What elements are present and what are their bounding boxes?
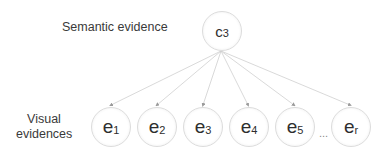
- semantic-evidence-label: Semantic evidence: [62, 20, 168, 35]
- edge-c3-e4: [221, 51, 248, 105]
- edge-c3-e5: [221, 51, 294, 105]
- node-e1-sub: 1: [113, 124, 119, 136]
- node-e4: e4: [229, 107, 269, 147]
- node-e3-sub: 3: [205, 124, 211, 136]
- node-e2-sub: 2: [159, 124, 165, 136]
- node-e2: e2: [137, 107, 177, 147]
- visual-label-line1: Visual: [16, 112, 72, 127]
- node-e4-sub: 4: [251, 124, 257, 136]
- node-e2-main: e: [149, 116, 160, 138]
- node-e5-main: e: [287, 116, 298, 138]
- node-e3-main: e: [195, 116, 206, 138]
- visual-label-line2: evidences: [16, 127, 72, 142]
- node-e3: e3: [183, 107, 223, 147]
- node-e1-main: e: [103, 116, 114, 138]
- node-er-sub: r: [354, 124, 358, 136]
- edge-c3-er: [221, 51, 350, 105]
- node-er: er: [331, 107, 371, 147]
- node-e4-main: e: [241, 116, 252, 138]
- ellipsis: ...: [319, 127, 328, 139]
- node-c3: c3: [202, 11, 242, 51]
- node-c3-main: c: [215, 23, 223, 40]
- node-c3-sub: 3: [223, 27, 229, 39]
- visual-evidences-label: Visual evidences: [16, 112, 72, 142]
- node-e1: e1: [91, 107, 131, 147]
- node-e5: e5: [275, 107, 315, 147]
- node-e5-sub: 5: [297, 124, 303, 136]
- node-er-main: e: [344, 116, 355, 138]
